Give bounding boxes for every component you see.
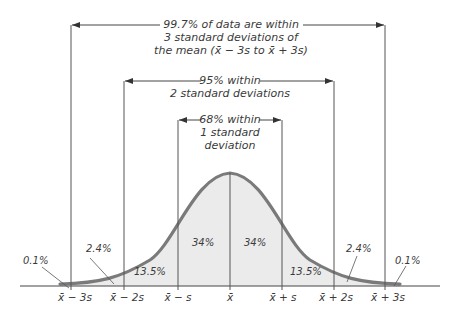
pct-right-2-3: 2.4% — [346, 243, 371, 254]
bracket-2sd-line2: 2 standard deviations — [150, 87, 310, 100]
tick-mean: x̄ — [227, 291, 233, 303]
pct-left-tail: 0.1% — [23, 255, 48, 266]
leader-left-tail — [42, 267, 69, 288]
tick-plus-2s: x̄ + 2s — [319, 291, 353, 303]
bracket-3sd-line1: 99.7% of data are within — [128, 18, 334, 31]
tick-minus-2s: x̄ − 2s — [110, 291, 144, 303]
pct-right-tail: 0.1% — [395, 255, 420, 266]
pct-left-0-1: 34% — [192, 237, 214, 248]
tick-minus-1s: x̄ − s — [164, 291, 191, 303]
normal-distribution-diagram: 99.7% of data are within 3 standard devi… — [0, 0, 458, 320]
tick-minus-3s: x̄ − 3s — [58, 291, 92, 303]
bracket-1sd-line3: deviation — [190, 139, 270, 152]
pct-left-1-2: 13.5% — [134, 266, 166, 277]
tick-plus-1s: x̄ + s — [269, 291, 296, 303]
bracket-2sd-label: 95% within 2 standard deviations — [150, 74, 310, 100]
bracket-2sd-line1: 95% within — [150, 74, 310, 87]
pct-right-0-1: 34% — [244, 237, 266, 248]
tick-plus-3s: x̄ + 3s — [371, 291, 405, 303]
pct-left-2-3: 2.4% — [86, 243, 111, 254]
bracket-1sd-label: 68% within 1 standard deviation — [190, 113, 270, 152]
bracket-3sd-line2: 3 standard deviations of — [128, 31, 334, 44]
bracket-1sd-line2: 1 standard — [190, 126, 270, 139]
bracket-1sd-line1: 68% within — [190, 113, 270, 126]
bracket-3sd-label: 99.7% of data are within 3 standard devi… — [128, 18, 334, 57]
pct-right-1-2: 13.5% — [290, 266, 322, 277]
bracket-3sd-line3: the mean (x̄ − 3s to x̄ + 3s) — [128, 44, 334, 57]
